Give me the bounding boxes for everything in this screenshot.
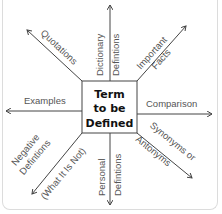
concept-map: Term to be Defined Dictionary Defintions… <box>0 0 222 214</box>
label-right: Comparison <box>146 98 197 109</box>
label-top-line2: Defintions <box>110 34 121 76</box>
center-label-line2: to be <box>94 102 126 115</box>
label-bottom-left-line3: (What It Is Not) <box>38 145 87 201</box>
label-top-line1: Dictionary <box>94 34 105 76</box>
center-label-line3: Defined <box>86 117 134 130</box>
label-bottom-line1: Personal <box>96 159 107 197</box>
label-bottom-line2: Defintions <box>112 154 123 196</box>
label-left: Examples <box>24 95 66 106</box>
center-label-line1: Term <box>94 88 124 101</box>
